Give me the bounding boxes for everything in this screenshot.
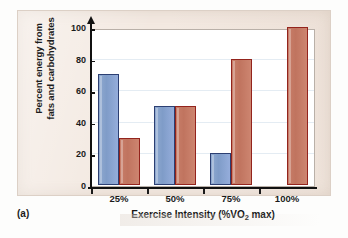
gridline	[91, 59, 314, 60]
chart-panel: Percent energy from fats and carbohydrat…	[17, 10, 331, 196]
x-axis-tick-mark	[147, 189, 149, 194]
y-axis-tick-label: 100	[64, 23, 86, 33]
x-axis-tick-mark	[91, 189, 93, 194]
bar-carbohydrates-25	[119, 138, 140, 185]
y-axis-tick-label: 60	[64, 86, 86, 96]
x-axis-title-post: max)	[249, 209, 275, 220]
x-axis-tick-mark	[203, 189, 205, 194]
gridline	[91, 90, 314, 91]
figure-root: Percent energy from fats and carbohydrat…	[0, 0, 348, 238]
y-axis-arrow-icon	[87, 16, 95, 24]
x-axis-tick-mark	[259, 189, 261, 194]
y-axis-tick-mark	[91, 124, 95, 126]
bar-fats-25	[98, 74, 119, 185]
x-axis-category-label: 50%	[147, 193, 203, 204]
y-axis-tick-label: 40	[64, 118, 86, 128]
bar-fats-75	[210, 153, 231, 185]
y-axis-title-line-2: fats and carbohydrates	[44, 3, 56, 135]
x-axis-category-label: 100%	[259, 193, 315, 204]
x-axis-title: Exercise Intensity (%VO2 max)	[78, 209, 328, 222]
bar-carbohydrates-100	[287, 27, 308, 185]
y-axis-line	[90, 23, 92, 187]
bar-carbohydrates-75	[231, 59, 252, 185]
x-axis-category-label: 75%	[203, 193, 259, 204]
x-axis-category-label: 25%	[91, 193, 147, 204]
y-axis-tick-mark	[91, 155, 95, 157]
x-axis-title-pre: Exercise Intensity (%VO	[131, 209, 244, 220]
y-axis-tick-mark	[91, 29, 95, 31]
y-axis-tick-mark	[91, 61, 95, 63]
y-axis-tick-label: 20	[64, 149, 86, 159]
y-axis-title-line-1: Percent energy from	[33, 3, 45, 135]
y-axis-title: Percent energy from fats and carbohydrat…	[33, 3, 56, 135]
gridline	[91, 122, 314, 123]
bar-carbohydrates-50	[175, 106, 196, 185]
y-axis-tick-mark	[91, 92, 95, 94]
figure-caption: (a)	[17, 208, 29, 219]
y-axis-tick-label: 80	[64, 55, 86, 65]
bar-fats-50	[154, 106, 175, 185]
y-axis-tick-label: 0	[64, 181, 86, 191]
